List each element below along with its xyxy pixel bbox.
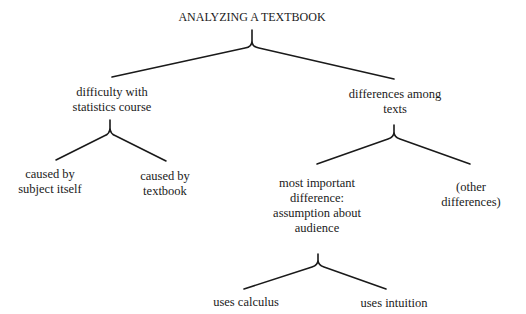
intuition-node: uses intuition <box>360 296 427 311</box>
important-label-line2: difference: <box>273 191 361 206</box>
intuition-label: uses intuition <box>360 296 427 311</box>
root-node: ANALYZING A TEXTBOOK <box>178 10 325 25</box>
textbook-label-line2: textbook <box>140 184 190 199</box>
textbook-label-line1: caused by <box>140 169 190 184</box>
calculus-label: uses calculus <box>213 295 279 310</box>
textbook-node: caused by textbook <box>140 169 190 199</box>
root-branch <box>112 30 394 79</box>
other-label-line2: differences) <box>441 195 500 210</box>
important-label-line1: most important <box>273 176 361 191</box>
subject-node: caused by subject itself <box>18 167 82 197</box>
difficulty-branch <box>56 120 166 161</box>
subject-label-line1: caused by <box>18 167 82 182</box>
important-branch <box>244 254 386 289</box>
difficulty-label-line1: difficulty with <box>73 85 152 100</box>
important-label-line3: assumption about <box>273 206 361 221</box>
subject-label-line2: subject itself <box>18 182 82 197</box>
calculus-node: uses calculus <box>213 295 279 310</box>
important-label-line4: audience <box>273 221 361 236</box>
difficulty-node: difficulty with statistics course <box>73 85 152 115</box>
other-node: (other differences) <box>441 180 500 210</box>
root-label: ANALYZING A TEXTBOOK <box>178 10 325 24</box>
differences-branch <box>317 125 470 164</box>
other-label-line1: (other <box>441 180 500 195</box>
tree-connectors <box>0 0 526 314</box>
important-node: most important difference: assumption ab… <box>273 176 361 236</box>
differences-label-line1: differences among <box>349 87 441 102</box>
differences-node: differences among texts <box>349 87 441 117</box>
differences-label-line2: texts <box>349 102 441 117</box>
difficulty-label-line2: statistics course <box>73 100 152 115</box>
